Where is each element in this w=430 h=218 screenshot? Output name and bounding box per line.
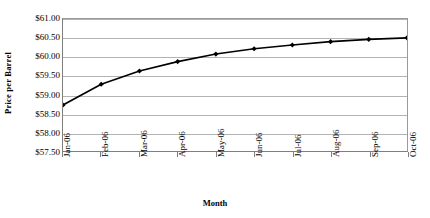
x-axis-tick-label-text: Jun-06 xyxy=(254,133,264,158)
data-point-marker xyxy=(328,39,333,44)
y-axis-tick-label: $61.00 xyxy=(12,13,60,23)
x-axis-tick-label: Jan-06 xyxy=(42,157,82,197)
x-axis-tick-label: Aug-06 xyxy=(311,157,351,197)
data-point-marker xyxy=(290,42,295,47)
x-axis-tick-label: Mar-06 xyxy=(119,157,159,197)
data-point-marker xyxy=(175,59,180,64)
x-axis-tick-label-text: May-06 xyxy=(216,129,226,158)
x-axis-tick-label-text: Jan-06 xyxy=(62,133,72,157)
data-point-marker xyxy=(366,37,371,42)
x-axis-tick-label-text: Sep-06 xyxy=(370,132,380,158)
x-axis-tick-label-text: Feb-06 xyxy=(100,132,110,158)
x-axis-tick-label-text: Apr-06 xyxy=(177,131,187,157)
data-point-marker xyxy=(404,35,407,40)
x-axis-tick-label: Oct-06 xyxy=(388,157,428,197)
y-axis-tick-label: $60.50 xyxy=(12,32,60,42)
x-axis-tick-label: Feb-06 xyxy=(80,157,120,197)
y-axis-tick-label: $60.00 xyxy=(12,51,60,61)
y-axis-tick-label: $59.50 xyxy=(12,70,60,80)
x-axis-tick-label-text: Jul-06 xyxy=(293,135,303,158)
x-axis-tick-labels: Jan-06Feb-06Mar-06Apr-06May-06Jun-06Jul-… xyxy=(62,157,408,197)
data-point-marker xyxy=(137,68,142,73)
x-axis-tick-label: Apr-06 xyxy=(157,157,197,197)
x-axis-tick-label: May-06 xyxy=(196,157,236,197)
data-point-marker xyxy=(252,46,257,51)
x-axis-tick-label-text: Aug-06 xyxy=(331,130,341,158)
x-axis-tick-label: Jun-06 xyxy=(234,157,274,197)
y-axis-tick-label: $57.50 xyxy=(12,147,60,157)
y-axis-tick-label: $58.50 xyxy=(12,109,60,119)
plot-area xyxy=(62,18,408,152)
series-line xyxy=(63,19,407,151)
x-axis-tick-label-text: Mar-06 xyxy=(139,130,149,157)
x-axis-tick-label: Jul-06 xyxy=(273,157,313,197)
x-axis-title: Month xyxy=(0,198,430,208)
data-point-marker xyxy=(213,52,218,57)
x-axis-tick-label-text: Oct-06 xyxy=(408,132,418,157)
x-axis-tick-label: Sep-06 xyxy=(350,157,390,197)
line-chart: Price per Barrel $57.50$58.00$58.50$59.0… xyxy=(0,0,430,218)
y-axis-tick-label: $58.00 xyxy=(12,128,60,138)
y-axis-tick-label: $59.00 xyxy=(12,90,60,100)
series-polyline xyxy=(63,38,407,105)
